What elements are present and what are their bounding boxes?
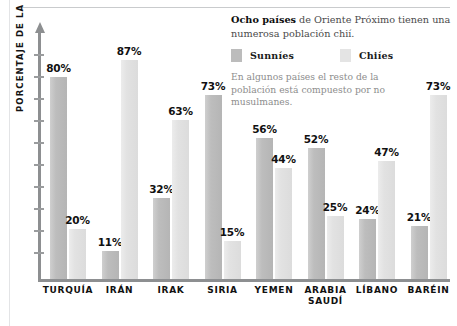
left-divider [9, 0, 10, 326]
chart-note: En algunos países el resto de la poblaci… [231, 71, 391, 109]
bar-value-label: 32% [149, 183, 174, 195]
bar-column[interactable]: 21% [411, 226, 428, 279]
legend-item-sunnies[interactable]: Sunníes [231, 49, 294, 62]
x-axis-label-líbano: LÍBANO [351, 285, 403, 296]
bar-column[interactable]: 24% [359, 219, 376, 279]
bar-shia[interactable] [224, 241, 241, 279]
bar-sunni[interactable] [308, 148, 325, 279]
bar-column[interactable]: 63% [172, 120, 189, 279]
chart-figure: PORCENTAJE DE LA POBLACIÓN 80%20%11%87%3… [0, 0, 457, 326]
bar-column[interactable]: 20% [69, 229, 86, 279]
chart-headline: Ocho países de Oriente Próximo tienen un… [231, 13, 453, 40]
legend-swatch-icon-chiies [340, 49, 351, 62]
bar-value-label: 52% [304, 133, 329, 145]
infobox: Ocho países de Oriente Próximo tienen un… [231, 13, 453, 109]
x-axis-label-baréin: BARÉIN [403, 285, 455, 296]
x-axis-label-arabia-saudí: ARABIASAUDÍ [300, 285, 352, 307]
bar-value-label: 73% [201, 80, 226, 92]
bar-shia[interactable] [378, 161, 395, 279]
bar-value-label: 24% [355, 204, 380, 216]
y-axis-title: PORCENTAJE DE LA POBLACIÓN [15, 0, 25, 112]
bar-shia[interactable] [327, 216, 344, 279]
bar-column[interactable]: 52% [308, 148, 325, 279]
bar-value-label: 21% [407, 211, 432, 223]
bar-value-label: 44% [271, 153, 296, 165]
x-axis-label-line: LÍBANO [351, 285, 403, 296]
bar-column[interactable]: 25% [327, 216, 344, 279]
legend-label-chiies: Chiíes [359, 50, 393, 61]
bar-column[interactable]: 47% [378, 161, 395, 279]
bar-value-label: 56% [252, 123, 277, 135]
bar-shia[interactable] [172, 120, 189, 279]
bar-shia[interactable] [430, 95, 447, 279]
x-axis-label-line: SAUDÍ [300, 296, 352, 307]
x-axis-label-line: IRÁN [94, 285, 146, 296]
x-axis-label-line: IRAK [145, 285, 197, 296]
bar-sunni[interactable] [411, 226, 428, 279]
legend-label-sunnies: Sunníes [250, 50, 294, 61]
bar-value-label: 11% [98, 236, 123, 248]
x-axis-label-line: YEMEN [248, 285, 300, 296]
x-axis-label-siria: SIRIA [197, 285, 249, 296]
top-divider [18, 7, 450, 8]
bar-column[interactable]: 87% [121, 60, 138, 279]
bar-group: 80%20% [50, 27, 86, 279]
x-axis-label-line: TURQUÍA [42, 285, 94, 296]
chart-legend: Sunníes Chiíes [231, 49, 453, 62]
bar-shia[interactable] [275, 168, 292, 279]
bar-sunni[interactable] [102, 251, 119, 279]
bar-value-label: 80% [46, 62, 71, 74]
bar-sunni[interactable] [50, 77, 67, 279]
bar-sunni[interactable] [205, 95, 222, 279]
bar-column[interactable]: 73% [205, 95, 222, 279]
bar-sunni[interactable] [359, 219, 376, 279]
bar-column[interactable]: 15% [224, 241, 241, 279]
x-axis-category-labels: TURQUÍAIRÁNIRAKSIRIAYEMENARABIASAUDÍLÍBA… [38, 285, 450, 323]
y-axis-title-holder: PORCENTAJE DE LA POBLACIÓN [20, 70, 34, 270]
bar-group: 11%87% [102, 27, 138, 279]
x-axis-label-line: BARÉIN [403, 285, 455, 296]
bar-value-label: 15% [220, 226, 245, 238]
legend-swatch-icon-sunnies [231, 49, 242, 62]
headline-emphasis: Ocho países [231, 14, 296, 25]
bar-value-label: 20% [65, 214, 90, 226]
bar-column[interactable]: 11% [102, 251, 119, 279]
x-axis-label-irak: IRAK [145, 285, 197, 296]
bar-shia[interactable] [121, 60, 138, 279]
x-axis-label-line: ARABIA [300, 285, 352, 296]
bar-value-label: 87% [117, 45, 142, 57]
legend-item-chiies[interactable]: Chiíes [340, 49, 393, 62]
bar-group: 32%63% [153, 27, 189, 279]
x-axis-label-irán: IRÁN [94, 285, 146, 296]
x-axis-label-yemen: YEMEN [248, 285, 300, 296]
bar-column[interactable]: 80% [50, 77, 67, 279]
bar-shia[interactable] [69, 229, 86, 279]
bar-column[interactable]: 44% [275, 168, 292, 279]
bar-column[interactable]: 73% [430, 95, 447, 279]
bar-column[interactable]: 32% [153, 198, 170, 279]
bar-value-label: 63% [168, 105, 193, 117]
bar-value-label: 25% [323, 201, 348, 213]
bar-value-label: 47% [374, 146, 399, 158]
x-axis-label-line: SIRIA [197, 285, 249, 296]
x-axis-label-turquía: TURQUÍA [42, 285, 94, 296]
bar-sunni[interactable] [153, 198, 170, 279]
